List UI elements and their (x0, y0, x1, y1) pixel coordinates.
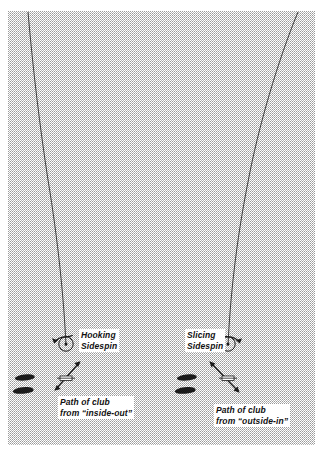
diagram-vector-layer (0, 0, 323, 452)
path-outside-in-label: Path of club from “outside-in” (214, 404, 290, 427)
left-stance-footprints-icon (13, 374, 35, 394)
figure-root: Hooking Sidespin Slicing Sidespin Path o… (0, 0, 323, 452)
path-inside-out-label: Path of club from “inside-out” (58, 396, 134, 419)
outside-in-club-path-arrow-icon (209, 361, 239, 393)
hook-trajectory-curve (28, 12, 66, 346)
slice-trajectory-curve (228, 12, 298, 346)
right-stance-footprints-icon (175, 374, 197, 394)
hooking-spin-arrow-icon (52, 335, 73, 351)
slicing-sidespin-label: Slicing Sidespin (185, 329, 225, 352)
inside-out-club-path-arrow-icon (54, 361, 80, 391)
hooking-sidespin-label: Hooking Sidespin (79, 329, 119, 352)
